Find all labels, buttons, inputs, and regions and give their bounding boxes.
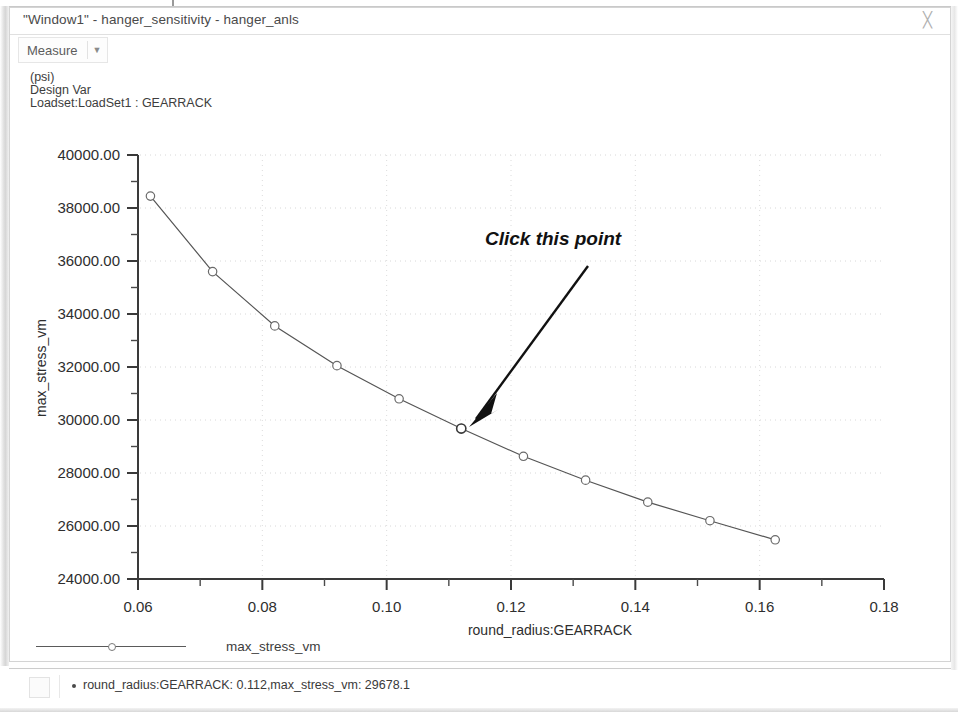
annotation-text: Click this point [485,228,622,249]
chart-gridlines [140,155,884,577]
legend-swatch-max-stress-vm [36,640,186,652]
data-point-marker[interactable] [146,192,154,200]
measure-toolbar: Measure ▼ [18,37,108,63]
data-point-marker[interactable] [208,267,216,275]
plot-header: (psi) Design Var Loadset:LoadSet1 : GEAR… [30,71,212,110]
window-titlebar: "Window1" - hanger_sensitivity - hanger_… [10,8,950,35]
x-axis-tick-label: 0.08 [248,598,277,615]
frame-right-edge [951,6,958,670]
plot-window-screenshot: "Window1" - hanger_sensitivity - hanger_… [0,0,958,712]
x-axis-tick-label: 0.14 [621,598,650,615]
chevron-down-icon[interactable]: ▼ [88,38,107,62]
data-point-marker[interactable] [706,517,714,525]
x-axis-tick-label: 0.18 [869,598,898,615]
y-axis-tick-label: 24000.00 [57,570,120,587]
annotation-arrow-line [476,266,588,419]
chart-tick-labels: 24000.0026000.0028000.0030000.0032000.00… [57,146,898,615]
y-axis-tick-label: 28000.00 [57,464,120,481]
plot-loadset-label: Loadset:LoadSet1 : GEARRACK [30,97,212,110]
status-bar: round_radius:GEARRACK: 0.112,max_stress_… [9,668,951,706]
x-axis-tick-label: 0.06 [123,598,152,615]
measure-button[interactable]: Measure [19,38,87,62]
y-axis-tick-label: 40000.00 [57,146,120,163]
chart-legend: max_stress_vm [36,636,321,656]
x-axis-tick-label: 0.12 [496,598,525,615]
y-axis-tick-label: 38000.00 [57,199,120,216]
status-readout: round_radius:GEARRACK: 0.112,max_stress_… [83,678,410,692]
window-title: "Window1" - hanger_sensitivity - hanger_… [23,12,299,27]
data-point-marker[interactable] [395,395,403,403]
x-axis-tick-label: 0.10 [372,598,401,615]
legend-label-max-stress-vm: max_stress_vm [226,639,321,654]
y-axis-tick-label: 36000.00 [57,252,120,269]
data-point-marker[interactable] [271,322,279,330]
data-point-marker[interactable] [581,476,589,484]
graph-window: "Window1" - hanger_sensitivity - hanger_… [9,7,951,662]
highlighted-data-point[interactable] [457,424,466,433]
y-axis-tick-label: 30000.00 [57,411,120,428]
frame-left-edge [0,6,9,666]
y-axis-tick-label: 26000.00 [57,517,120,534]
legend-marker-icon [108,643,116,651]
frame-bottom-edge [0,708,958,712]
data-point-marker[interactable] [644,498,652,506]
data-point-marker[interactable] [333,361,341,369]
status-square-icon[interactable] [29,677,50,698]
status-divider [59,675,60,698]
chart-axes [127,155,884,590]
y-axis-tick-label: 32000.00 [57,358,120,375]
data-point-marker[interactable] [519,452,527,460]
chart-annotation: Click this point [469,228,622,427]
y-axis-tick-label: 34000.00 [57,305,120,322]
x-axis-title: round_radius:GEARRACK [468,622,633,638]
x-axis-tick-label: 0.16 [745,598,774,615]
data-point-marker[interactable] [457,424,465,432]
status-bullet-icon [72,684,76,688]
close-icon[interactable]: ╳ [916,11,938,29]
annotation-arrow-head [469,393,499,427]
chart-series-max-stress-vm [146,192,779,544]
series-line [150,196,775,540]
data-point-marker[interactable] [771,536,779,544]
y-axis-title: max_stress_vm [33,319,49,417]
